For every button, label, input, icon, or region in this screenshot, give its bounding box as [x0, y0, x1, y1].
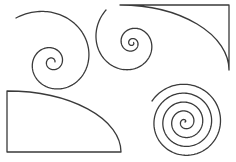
quarter-shape-top-right — [120, 5, 229, 70]
spiral-top-left — [16, 11, 89, 89]
spiral-diagram — [0, 0, 236, 162]
quarter-shape-bottom-left — [7, 91, 121, 152]
spiral-top-middle — [96, 10, 152, 70]
spiral-bottom-right — [152, 84, 221, 155]
